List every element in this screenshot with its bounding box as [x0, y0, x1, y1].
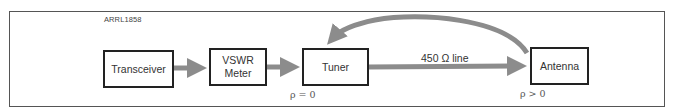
- transceiver-label: Transceiver: [111, 63, 165, 76]
- antenna-label: Antenna: [540, 60, 579, 73]
- arrow-tuner-to-antenna: [368, 66, 518, 67]
- tuner-reflection-coefficient: ρ = 0: [290, 89, 316, 100]
- tuner-box: Tuner: [302, 48, 369, 86]
- vswr-meter-box: VSWR Meter: [209, 48, 267, 86]
- tuner-label: Tuner: [322, 61, 349, 74]
- transceiver-box: Transceiver: [103, 50, 174, 88]
- vswr-meter-label-line2: Meter: [225, 67, 252, 80]
- antenna-reflection-coefficient: ρ > 0: [520, 88, 546, 99]
- vswr-meter-label-line1: VSWR: [222, 54, 254, 67]
- antenna-box: Antenna: [530, 47, 589, 85]
- transmission-line-label: 450 Ω line: [421, 52, 469, 64]
